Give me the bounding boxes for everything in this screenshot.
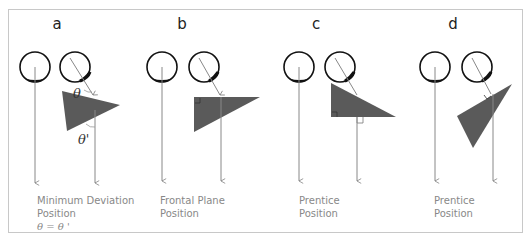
right-eye-icon [60, 52, 90, 82]
caption-a-equation: θ = θ ' [37, 220, 134, 233]
angle-theta-label: θ [73, 86, 81, 101]
prism-triangle [457, 84, 512, 148]
left-eye-icon [420, 52, 450, 181]
panel-d [420, 52, 512, 181]
caption-b-line2: Position [160, 207, 225, 220]
caption-c: Prentice Position [299, 194, 340, 220]
angle-theta-prime-label: θ' [78, 132, 89, 147]
prism-triangle [62, 91, 120, 131]
caption-c-line1: Prentice [299, 194, 340, 207]
prism-triangle [331, 83, 396, 117]
prism-triangle [194, 97, 260, 132]
panel-b [147, 52, 260, 181]
caption-a: Minimum Deviation Position θ = θ ' [37, 194, 134, 233]
caption-a-line2: Position [37, 207, 134, 220]
left-eye-icon [147, 52, 177, 181]
caption-d-line2: Position [434, 207, 475, 220]
panel-c [284, 52, 396, 181]
caption-c-line2: Position [299, 207, 340, 220]
left-eye-icon [284, 52, 314, 181]
caption-d: Prentice Position [434, 194, 475, 220]
left-eye-icon [20, 52, 50, 183]
panel-a: θ θ' [20, 52, 120, 183]
caption-d-line1: Prentice [434, 194, 475, 207]
caption-b: Frontal Plane Position [160, 194, 225, 220]
caption-b-line1: Frontal Plane [160, 194, 225, 207]
caption-a-line1: Minimum Deviation [37, 194, 134, 207]
